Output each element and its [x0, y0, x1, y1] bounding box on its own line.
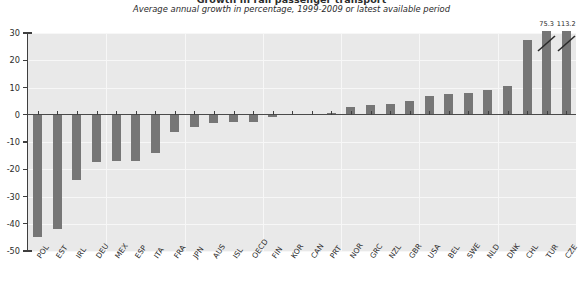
y-axis-label: -10 — [0, 138, 20, 146]
x-axis-tick — [312, 111, 313, 115]
gridline-horizontal — [28, 197, 576, 198]
gridline-vertical — [419, 33, 420, 251]
y-axis-tick — [23, 87, 28, 88]
y-axis-cap-bottom — [27, 250, 32, 251]
chart-subtitle: Average annual growth in percentage, 199… — [0, 4, 583, 14]
bar-value-cze: 113.2 — [548, 20, 583, 28]
bar-esp — [131, 115, 140, 161]
gridline-horizontal — [28, 33, 576, 34]
bar-aus — [209, 115, 218, 123]
x-axis-tick — [77, 111, 78, 115]
gridline-vertical — [263, 33, 264, 251]
bar-mex — [112, 115, 121, 161]
gridline-horizontal — [28, 169, 576, 170]
gridline-horizontal — [28, 142, 576, 143]
y-axis-label: 30 — [0, 29, 20, 37]
bar-irl — [72, 115, 81, 180]
y-axis-tick — [23, 223, 28, 224]
bar-jpn — [190, 115, 199, 127]
x-axis-tick — [57, 111, 58, 115]
x-axis-tick — [547, 111, 548, 115]
x-axis-tick — [371, 111, 372, 115]
y-axis-label: 10 — [0, 84, 20, 92]
y-axis-tick — [23, 141, 28, 142]
bar-ita — [151, 115, 160, 153]
x-axis-tick — [390, 111, 391, 115]
chart-figure: Growth in rail passenger transport Avera… — [0, 0, 583, 281]
y-axis-label: -50 — [0, 247, 20, 255]
x-axis-tick — [508, 111, 509, 115]
bar-fra — [170, 115, 179, 133]
x-axis-tick — [566, 111, 567, 115]
gridline-horizontal — [28, 224, 576, 225]
x-axis-tick — [331, 111, 332, 115]
x-axis-tick — [273, 111, 274, 115]
gridline-vertical — [498, 33, 499, 251]
x-axis-tick — [527, 111, 528, 115]
x-axis-tick — [488, 111, 489, 115]
bar-est — [53, 115, 62, 229]
zero-baseline — [28, 114, 576, 115]
x-axis-tick — [468, 111, 469, 115]
x-axis-tick — [292, 111, 293, 115]
x-axis-tick — [116, 111, 117, 115]
x-axis-tick — [175, 111, 176, 115]
x-axis-tick — [97, 111, 98, 115]
x-axis-tick — [214, 111, 215, 115]
bar-tur — [542, 31, 551, 115]
x-axis-tick — [253, 111, 254, 115]
bar-chl — [523, 40, 532, 115]
y-axis-label: -40 — [0, 220, 20, 228]
x-axis-tick — [194, 111, 195, 115]
bar-cze — [562, 31, 571, 115]
gridline-vertical — [106, 33, 107, 251]
x-axis-tick — [449, 111, 450, 115]
gridline-vertical — [341, 33, 342, 251]
x-axis-tick — [136, 111, 137, 115]
bar-deu — [92, 115, 101, 163]
y-axis-label: -20 — [0, 165, 20, 173]
y-axis-label: 20 — [0, 56, 20, 64]
y-axis-tick — [23, 60, 28, 61]
y-axis-tick — [23, 169, 28, 170]
x-axis-tick — [38, 111, 39, 115]
y-axis-label: -30 — [0, 193, 20, 201]
y-axis-tick — [23, 196, 28, 197]
y-axis-cap-top — [27, 32, 32, 33]
gridline-horizontal — [28, 60, 576, 61]
bar-isl — [229, 115, 238, 122]
x-axis-tick — [429, 111, 430, 115]
bar-pol — [33, 115, 42, 238]
x-axis-tick — [234, 111, 235, 115]
y-axis-label: 0 — [0, 111, 20, 119]
gridline-vertical — [185, 33, 186, 251]
gridline-horizontal — [28, 88, 576, 89]
x-axis-tick — [351, 111, 352, 115]
plot-area — [28, 33, 576, 251]
x-axis-tick — [155, 111, 156, 115]
x-axis-tick — [410, 111, 411, 115]
bar-oecd — [249, 115, 258, 122]
